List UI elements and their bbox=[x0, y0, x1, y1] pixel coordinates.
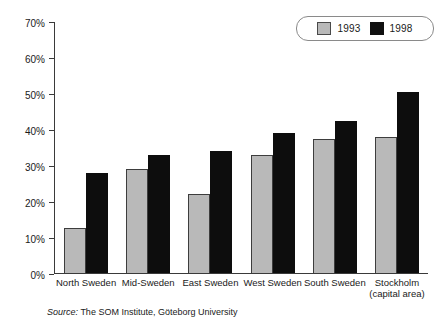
bar bbox=[210, 151, 232, 273]
x-axis-label: Mid-Sweden bbox=[117, 277, 179, 299]
bar-groups bbox=[55, 22, 428, 273]
bar-group bbox=[179, 22, 241, 273]
x-axis-label-line1: South Sweden bbox=[304, 277, 366, 288]
y-tick: 0% bbox=[49, 274, 54, 275]
x-axis-label: West Sweden bbox=[242, 277, 304, 299]
bar-group bbox=[55, 22, 117, 273]
bar bbox=[86, 173, 108, 273]
x-axis-labels: North SwedenMid-SwedenEast SwedenWest Sw… bbox=[55, 277, 428, 299]
y-tick-label: 0% bbox=[31, 269, 45, 280]
y-tick: 20% bbox=[49, 202, 54, 203]
y-tick-label: 30% bbox=[25, 161, 45, 172]
bar-group bbox=[117, 22, 179, 273]
x-axis-label-line2: (capital area) bbox=[366, 288, 428, 299]
bar bbox=[397, 92, 419, 273]
y-tick-label: 50% bbox=[25, 89, 45, 100]
x-axis-label-line1: West Sweden bbox=[243, 277, 301, 288]
bar bbox=[126, 169, 148, 273]
x-axis-label-line1: Mid-Sweden bbox=[122, 277, 175, 288]
bar bbox=[313, 139, 335, 273]
bar-group bbox=[242, 22, 304, 273]
x-axis-label: East Sweden bbox=[179, 277, 241, 299]
bar bbox=[273, 133, 295, 273]
bar-group bbox=[366, 22, 428, 273]
y-tick: 10% bbox=[49, 238, 54, 239]
bar bbox=[188, 194, 210, 273]
y-tick: 60% bbox=[49, 58, 54, 59]
source-note: Source: The SOM Institute, Göteborg Univ… bbox=[47, 307, 237, 317]
bar bbox=[335, 121, 357, 273]
y-tick: 40% bbox=[49, 130, 54, 131]
y-tick: 30% bbox=[49, 166, 54, 167]
y-tick-label: 60% bbox=[25, 53, 45, 64]
x-axis-label-line1: Stockholm bbox=[375, 277, 419, 288]
plot-area: 70%60%50%40%30%20%10%0% bbox=[54, 22, 428, 274]
bar bbox=[375, 137, 397, 273]
x-axis bbox=[54, 273, 428, 274]
bar-chart: 1993 1998 70%60%50%40%30%20%10%0% North … bbox=[0, 0, 448, 329]
y-tick-label: 10% bbox=[25, 233, 45, 244]
source-text: The SOM Institute, Göteborg University bbox=[80, 307, 237, 317]
bar bbox=[251, 155, 273, 273]
bar bbox=[148, 155, 170, 273]
bar-group bbox=[304, 22, 366, 273]
bar bbox=[64, 228, 86, 273]
x-axis-label: Stockholm(capital area) bbox=[366, 277, 428, 299]
x-axis-label-line1: East Sweden bbox=[182, 277, 238, 288]
x-axis-label-line1: North Sweden bbox=[56, 277, 116, 288]
x-axis-label: North Sweden bbox=[55, 277, 117, 299]
y-tick-label: 20% bbox=[25, 197, 45, 208]
y-tick: 50% bbox=[49, 94, 54, 95]
y-tick: 70% bbox=[49, 22, 54, 23]
x-axis-label: South Sweden bbox=[304, 277, 366, 299]
y-tick-label: 40% bbox=[25, 125, 45, 136]
source-label: Source: bbox=[47, 307, 78, 317]
y-tick-label: 70% bbox=[25, 17, 45, 28]
